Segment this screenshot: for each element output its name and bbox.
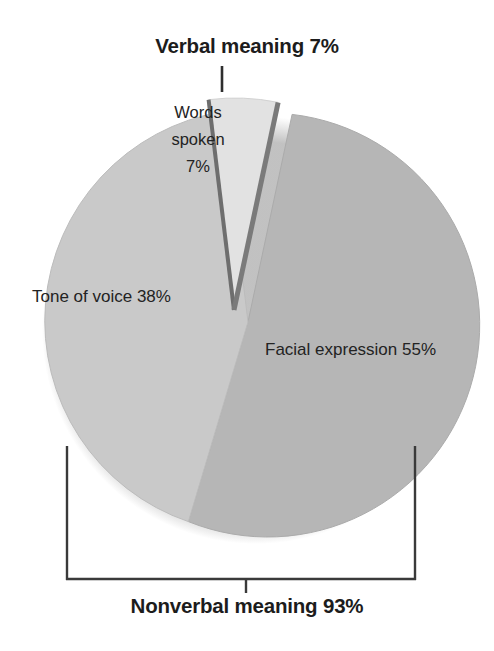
nonverbal-meaning-title: Nonverbal meaning 93%: [0, 594, 494, 618]
pie-label-words-spoken-line3: 7%: [186, 157, 210, 175]
pie-label-facial-expression: Facial expression 55%: [265, 340, 436, 359]
pie-label-words-spoken-line1: Words: [174, 103, 221, 121]
pie-chart-graphic: Facial expression 55% Tone of voice 38% …: [0, 0, 494, 651]
pie-label-words-spoken-line2: spoken: [171, 130, 224, 148]
pie-label-tone-of-voice: Tone of voice 38%: [32, 287, 171, 306]
pie-chart-figure: Verbal meaning 7%: [0, 0, 494, 651]
